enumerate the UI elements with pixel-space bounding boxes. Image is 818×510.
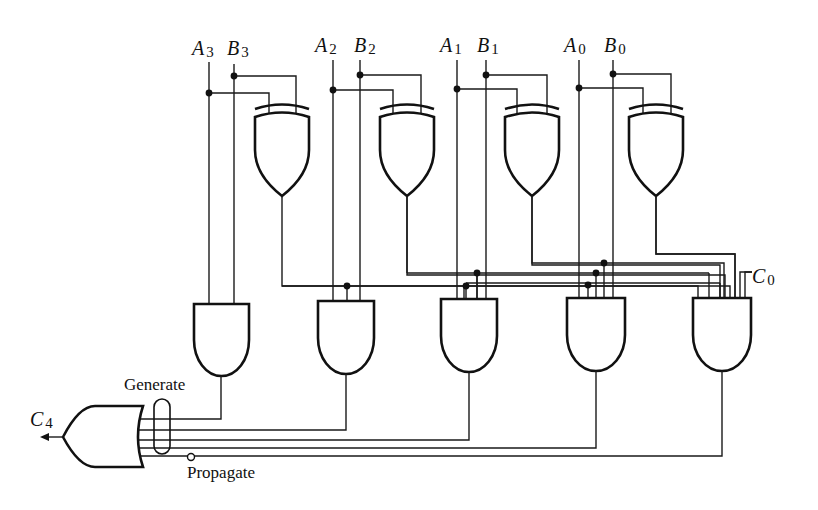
or-gate-c4 <box>63 406 143 467</box>
label-b1: B1 <box>477 34 499 57</box>
label-a0: A0 <box>562 34 586 57</box>
xor-gate-1 <box>505 105 559 197</box>
xor-gate-2 <box>380 105 434 197</box>
label-c0: C0 <box>752 265 775 288</box>
label-a1: A1 <box>438 34 462 57</box>
propagate-bus <box>282 196 752 301</box>
xor-gate-3 <box>255 105 309 197</box>
and-gate-p3p2g1 <box>441 299 497 372</box>
and-gate-p3p2p1g0 <box>567 298 625 371</box>
carry-lookahead-diagram: A3 B3 A2 B2 A1 B1 A0 B0 C0 C4 Generate P… <box>0 0 818 510</box>
label-a2: A2 <box>313 34 337 57</box>
propagate-marker <box>188 454 195 461</box>
bus-lines <box>282 196 752 299</box>
and-gate-g3 <box>194 304 249 376</box>
xor-gates <box>255 105 683 197</box>
generate-group-oval <box>154 399 170 454</box>
c4-output-arrow <box>40 433 63 441</box>
label-a3: A3 <box>190 37 214 60</box>
label-b3: B3 <box>227 37 249 60</box>
and-gate-p3g2 <box>318 301 374 374</box>
xor-gate-0 <box>629 105 683 197</box>
label-c4: C4 <box>30 408 53 431</box>
label-b0: B0 <box>604 34 626 57</box>
and-gate-p3p2p1p0c0 <box>693 298 751 371</box>
label-propagate: Propagate <box>187 463 255 482</box>
label-generate: Generate <box>124 375 185 394</box>
and-output-wires <box>137 371 722 456</box>
label-b2: B2 <box>354 34 376 57</box>
and-gates <box>194 298 751 376</box>
